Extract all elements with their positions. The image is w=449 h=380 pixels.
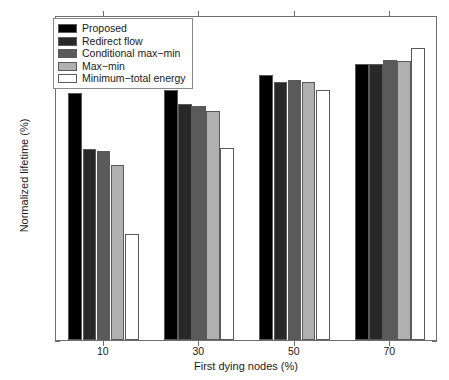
x-tick-label: 30 — [173, 346, 223, 357]
figure-canvas: 1009080706050403020100 10305070 First dy… — [0, 0, 449, 380]
legend-swatch-icon — [58, 49, 77, 58]
bar — [274, 82, 288, 340]
legend-item: Conditional max−min — [58, 48, 186, 60]
bar — [355, 64, 369, 340]
legend-swatch-icon — [58, 62, 77, 71]
legend-item-label: Redirect flow — [82, 36, 143, 47]
bar — [397, 61, 411, 340]
x-tick-label: 10 — [78, 346, 128, 357]
legend-swatch-icon — [58, 37, 77, 46]
legend-item: Proposed — [58, 23, 186, 35]
bar — [164, 90, 178, 340]
bar — [302, 82, 316, 340]
bar — [192, 106, 206, 340]
bar — [178, 104, 192, 340]
legend-item: Redirect flow — [58, 35, 186, 47]
bar — [206, 111, 220, 340]
bar — [125, 234, 139, 340]
legend-item: Max−min — [58, 60, 186, 72]
legend: ProposedRedirect flowConditional max−min… — [53, 18, 193, 89]
bar — [369, 64, 383, 340]
legend-item-label: Max−min — [82, 61, 125, 72]
bar-group — [355, 17, 426, 340]
y-tick-mark — [55, 341, 60, 342]
legend-item-label: Minimum−total energy — [82, 73, 186, 84]
x-tick-label: 50 — [269, 346, 319, 357]
bar — [68, 93, 82, 340]
legend-item: Minimum−total energy — [58, 73, 186, 85]
bar — [220, 148, 234, 340]
bar — [383, 60, 397, 340]
bar — [259, 75, 273, 340]
x-axis-label: First dying nodes (%) — [55, 361, 437, 372]
bar — [111, 165, 125, 341]
bar — [411, 48, 425, 341]
legend-item-label: Proposed — [82, 23, 127, 34]
y-axis-label: Normalized lifetime (%) — [19, 76, 30, 276]
legend-item-label: Conditional max−min — [82, 48, 180, 59]
bar — [83, 149, 97, 340]
bar-group — [259, 17, 330, 340]
y-tick-mark — [432, 341, 437, 342]
bar — [97, 151, 111, 340]
x-tick-label: 70 — [364, 346, 414, 357]
bar — [288, 80, 302, 340]
bar — [316, 90, 330, 340]
legend-swatch-icon — [58, 24, 77, 33]
legend-swatch-icon — [58, 74, 77, 83]
